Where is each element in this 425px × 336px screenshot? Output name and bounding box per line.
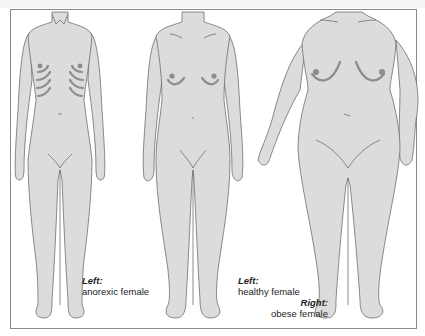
caption-text-right: obese female: [238, 308, 328, 319]
caption-anorexic: Left: anorexic female: [82, 275, 149, 297]
figure-obese: [258, 12, 418, 318]
figure-healthy: [143, 12, 243, 318]
caption-heading: Left:: [82, 275, 103, 286]
figure-anorexic: [15, 12, 105, 318]
body-illustrations: .skin{fill:#dcdcdc;stroke:#6e6e6e;stroke…: [0, 0, 425, 336]
caption-heading-left: Left:: [238, 275, 259, 286]
caption-text-left: healthy female: [238, 286, 300, 297]
caption-text: anorexic female: [82, 286, 149, 297]
caption-heading-right: Right:: [301, 297, 328, 308]
caption-healthy-obese: Left: healthy female Right: obese female: [238, 275, 328, 319]
